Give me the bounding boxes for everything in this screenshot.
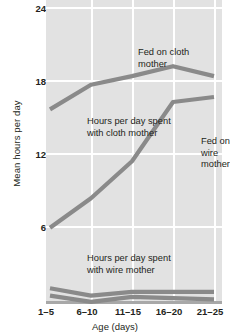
x-tick-21-25: 21–25 [182,306,230,317]
series-line-fed-on-cloth-mother [50,288,214,295]
chart-figure: Mean hours per day 24 18 12 6 1–5 6–10 1… [0,0,230,336]
annotation-hours-with-wire-mother: Hours per day spent with wire mother [87,253,171,276]
annotation-fed-on-cloth-mother: Fed on cloth mother [138,47,189,70]
y-axis-title: Mean hours per day [11,74,22,214]
y-tick-24: 24 [24,3,46,14]
x-axis-title: Age (days) [0,321,230,332]
annotation-hours-with-cloth-mother: Hours per day spent with cloth mother [87,116,171,139]
series-line-hours-with-cloth-mother [50,66,214,109]
y-tick-6: 6 [24,222,46,233]
plot-area: Fed on cloth mother Hours per day spent … [46,0,222,304]
annotation-fed-on-wire-mother: Fed on wire mother [201,136,230,171]
y-tick-12: 12 [24,149,46,160]
y-tick-18: 18 [24,76,46,87]
series-line-fed-on-wire-mother [50,296,214,302]
